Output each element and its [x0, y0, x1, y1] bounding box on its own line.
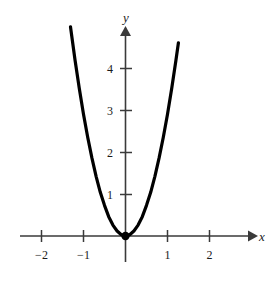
- x-tick-label-neg1: −1: [77, 248, 90, 262]
- parabola-figure: −2 −1 1 2 1 2 3 4 x y: [0, 0, 277, 282]
- x-axis-label: x: [258, 229, 265, 244]
- x-tick-label-pos1: 1: [165, 248, 171, 262]
- y-tick-label-1: 1: [107, 188, 113, 202]
- y-axis-label: y: [121, 10, 129, 25]
- vertex-point-marker: [121, 232, 129, 240]
- x-axis-arrowhead: [248, 231, 258, 242]
- y-tick-label-3: 3: [107, 104, 113, 118]
- y-tick-label-2: 2: [107, 146, 113, 160]
- parabola-curve: [70, 27, 178, 236]
- y-tick-label-4: 4: [107, 62, 113, 76]
- coordinate-plot: −2 −1 1 2 1 2 3 4 x y: [0, 0, 277, 282]
- x-tick-label-neg2: −2: [35, 248, 48, 262]
- y-axis-arrowhead: [120, 26, 131, 36]
- x-tick-label-pos2: 2: [207, 248, 213, 262]
